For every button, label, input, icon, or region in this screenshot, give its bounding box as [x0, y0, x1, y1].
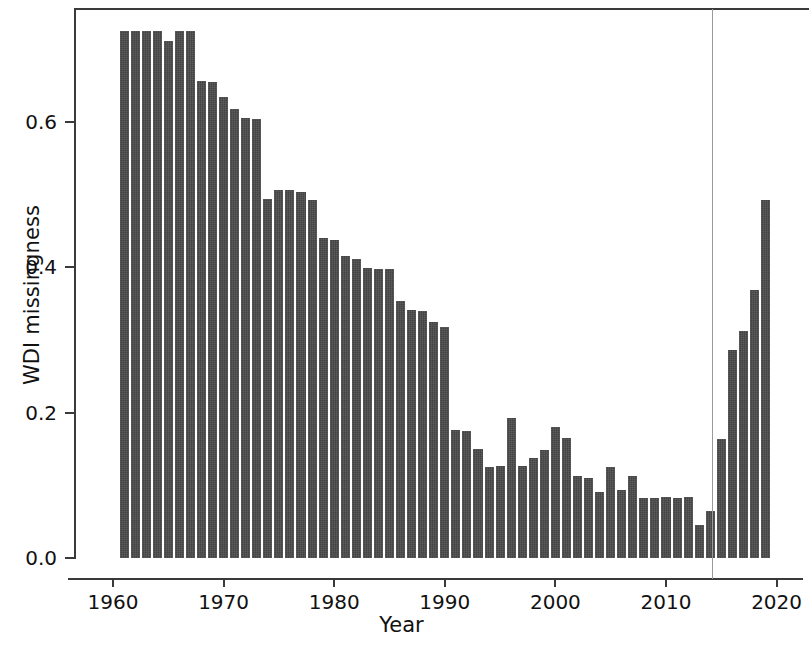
bar: [186, 31, 195, 558]
bar: [330, 240, 339, 558]
bar: [496, 466, 505, 558]
bar: [418, 311, 427, 558]
bar: [131, 31, 140, 558]
bar: [385, 269, 394, 558]
bar: [142, 31, 151, 558]
bar: [208, 82, 217, 558]
bar: [617, 490, 626, 558]
bar: [728, 350, 737, 558]
bar: [363, 268, 372, 558]
bar: [462, 431, 471, 558]
bar: [164, 41, 173, 558]
bar: [252, 119, 261, 558]
bar: [551, 427, 560, 558]
bar: [153, 31, 162, 558]
bar: [308, 200, 317, 558]
bar: [120, 31, 129, 558]
bar: [429, 322, 438, 558]
bar: [274, 190, 283, 558]
bar: [263, 199, 272, 558]
bar: [241, 118, 250, 558]
bar: [341, 256, 350, 558]
bar: [584, 478, 593, 558]
bar: [573, 476, 582, 558]
bar: [750, 290, 759, 558]
bar: [661, 497, 670, 558]
bar: [296, 192, 305, 558]
bar: [761, 200, 770, 558]
bar: [695, 525, 704, 558]
bar: [717, 439, 726, 558]
bar: [319, 238, 328, 558]
bar: [473, 449, 482, 558]
bar: [606, 467, 615, 558]
bar: [374, 269, 383, 558]
bar: [197, 81, 206, 558]
bar: [673, 498, 682, 558]
reference-line-vertical-line: [712, 9, 713, 579]
bar: [739, 331, 748, 558]
bar: [451, 430, 460, 558]
bar: [595, 492, 604, 558]
bar: [639, 498, 648, 558]
bar: [540, 450, 549, 558]
bar: [230, 109, 239, 558]
bar: [628, 476, 637, 558]
bar: [407, 310, 416, 558]
bar: [352, 259, 361, 558]
bar: [507, 418, 516, 558]
bar: [562, 438, 571, 558]
bar: [684, 497, 693, 558]
bar: [650, 498, 659, 558]
bar: [285, 190, 294, 558]
bar: [396, 301, 405, 558]
bar: [175, 31, 184, 558]
bar: [440, 327, 449, 558]
bar: [518, 466, 527, 558]
bar: [485, 467, 494, 558]
bar: [529, 458, 538, 558]
bar: [219, 97, 228, 558]
